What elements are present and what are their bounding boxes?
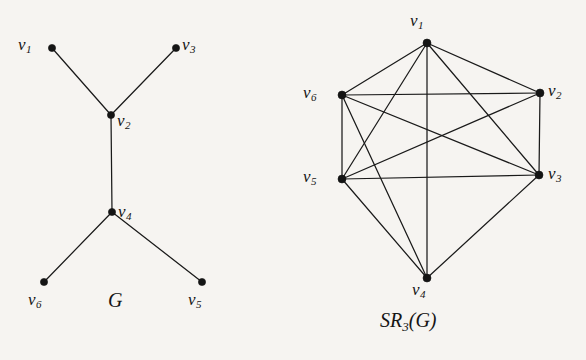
graph-vertex-v3 — [535, 171, 543, 179]
graph-edge — [342, 93, 540, 95]
graph-edge — [342, 175, 539, 179]
vertex-label-v1: v1 — [18, 36, 31, 53]
graph-vertex-v5 — [338, 175, 346, 183]
vertex-label-v4: v4 — [118, 203, 131, 220]
edge-group — [44, 48, 202, 282]
vertex-label-v2: v2 — [548, 82, 561, 99]
graph-edge — [427, 43, 539, 175]
graph-vertex-v2 — [107, 111, 114, 118]
graph-caption-right: SR3(G) — [380, 310, 436, 330]
graph-vertex-v1 — [48, 44, 55, 51]
vertex-label-v3: v3 — [548, 165, 561, 182]
graph-edge — [342, 93, 540, 179]
vertex-label-v1: v1 — [410, 12, 423, 29]
graph-edge — [111, 115, 112, 212]
graph-vertex-v1 — [423, 39, 431, 47]
graph-edge — [342, 95, 427, 278]
graph-panel-right — [338, 39, 544, 282]
graph-edge — [342, 95, 539, 175]
graph-edge — [44, 212, 112, 282]
vertex-label-v6: v6 — [303, 84, 316, 101]
graph-edge — [52, 48, 111, 115]
graph-vertex-v6 — [40, 278, 47, 285]
graph-edge — [427, 175, 539, 278]
edge-group — [342, 43, 540, 278]
vertex-label-v3: v3 — [182, 36, 195, 53]
vertex-label-v4: v4 — [412, 281, 425, 298]
graph-vertex-v6 — [338, 91, 346, 99]
graph-drawing-canvas — [0, 0, 586, 360]
graph-edge — [342, 43, 427, 95]
graph-panel-left — [40, 44, 205, 285]
graph-vertex-v3 — [172, 44, 179, 51]
graph-caption-left: G — [108, 290, 122, 310]
graph-figure: v1v3v2v4v6v5Gv1v6v2v5v3v4SR3(G) — [0, 0, 586, 360]
graph-edge — [342, 43, 427, 179]
graph-vertex-v5 — [198, 278, 205, 285]
graph-edge — [539, 93, 540, 175]
vertex-group — [338, 39, 544, 282]
vertex-label-v5: v5 — [188, 291, 201, 308]
graph-edge — [342, 179, 427, 278]
vertex-group — [40, 44, 205, 285]
graph-edge — [427, 43, 540, 93]
vertex-label-v5: v5 — [303, 168, 316, 185]
vertex-label-v2: v2 — [117, 112, 130, 129]
vertex-label-v6: v6 — [28, 291, 41, 308]
graph-vertex-v4 — [108, 208, 115, 215]
graph-vertex-v2 — [536, 89, 544, 97]
graph-edge — [112, 212, 202, 282]
graph-edge — [111, 48, 176, 115]
